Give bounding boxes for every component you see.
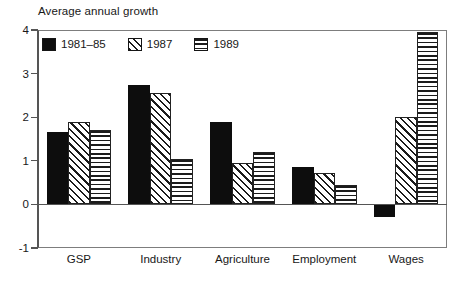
y-axis-tick	[31, 117, 37, 118]
legend-swatch-icon	[194, 38, 208, 51]
x-label-wages: Wages	[388, 253, 423, 265]
y-axis-tick-label: 2	[7, 111, 29, 123]
bar-wages-1981-85	[374, 204, 396, 217]
legend-item-1981-85: 1981–85	[42, 38, 106, 51]
legend-swatch-icon	[128, 38, 142, 51]
chart-legend: 1981–8519871989	[42, 36, 261, 52]
bar-wages-1987	[395, 117, 417, 204]
y-axis-tick-label: 1	[7, 155, 29, 167]
chart-title: Average annual growth	[38, 5, 158, 17]
y-axis-tick-label: 0	[7, 198, 29, 210]
bar-industry-1981-85	[128, 85, 150, 204]
bar-employment-1981-85	[292, 167, 314, 204]
bar-agriculture-1989	[253, 152, 275, 204]
y-axis-tick-label: 3	[7, 68, 29, 80]
bar-agriculture-1987	[232, 163, 254, 204]
bar-agriculture-1981-85	[210, 122, 232, 205]
legend-swatch-icon	[42, 38, 56, 51]
x-label-employment: Employment	[292, 253, 356, 265]
x-label-industry: Industry	[140, 253, 181, 265]
bar-industry-1987	[150, 93, 172, 204]
x-label-agriculture: Agriculture	[215, 253, 270, 265]
y-axis-tick-labels: 43210-1	[0, 0, 29, 285]
x-label-gsp: GSP	[67, 253, 91, 265]
zero-baseline	[38, 204, 447, 205]
legend-item-1987: 1987	[128, 38, 173, 51]
bar-wages-1989	[417, 32, 439, 204]
bar-industry-1989	[171, 159, 193, 205]
legend-label: 1989	[213, 38, 239, 50]
y-axis-tick-label: 4	[7, 24, 29, 36]
average-annual-growth-bar-chart: Average annual growth 43210-1 1981–85198…	[0, 0, 462, 285]
legend-label: 1981–85	[61, 38, 106, 50]
y-axis-tick	[31, 73, 37, 74]
y-axis-tick	[31, 160, 37, 161]
legend-label: 1987	[147, 38, 173, 50]
y-axis-tick	[31, 247, 37, 248]
bar-employment-1989	[335, 185, 357, 205]
bars-layer	[38, 30, 447, 248]
bar-employment-1987	[314, 173, 336, 204]
y-axis-tick-label: -1	[7, 242, 29, 254]
y-axis-tick	[31, 204, 37, 205]
legend-item-1989: 1989	[194, 38, 239, 51]
x-axis-category-labels: GSPIndustryAgricultureEmploymentWages	[38, 253, 447, 273]
y-axis-tick	[31, 29, 37, 30]
bar-gsp-1981-85	[47, 132, 69, 205]
bar-gsp-1989	[90, 130, 112, 204]
bar-gsp-1987	[68, 122, 90, 205]
